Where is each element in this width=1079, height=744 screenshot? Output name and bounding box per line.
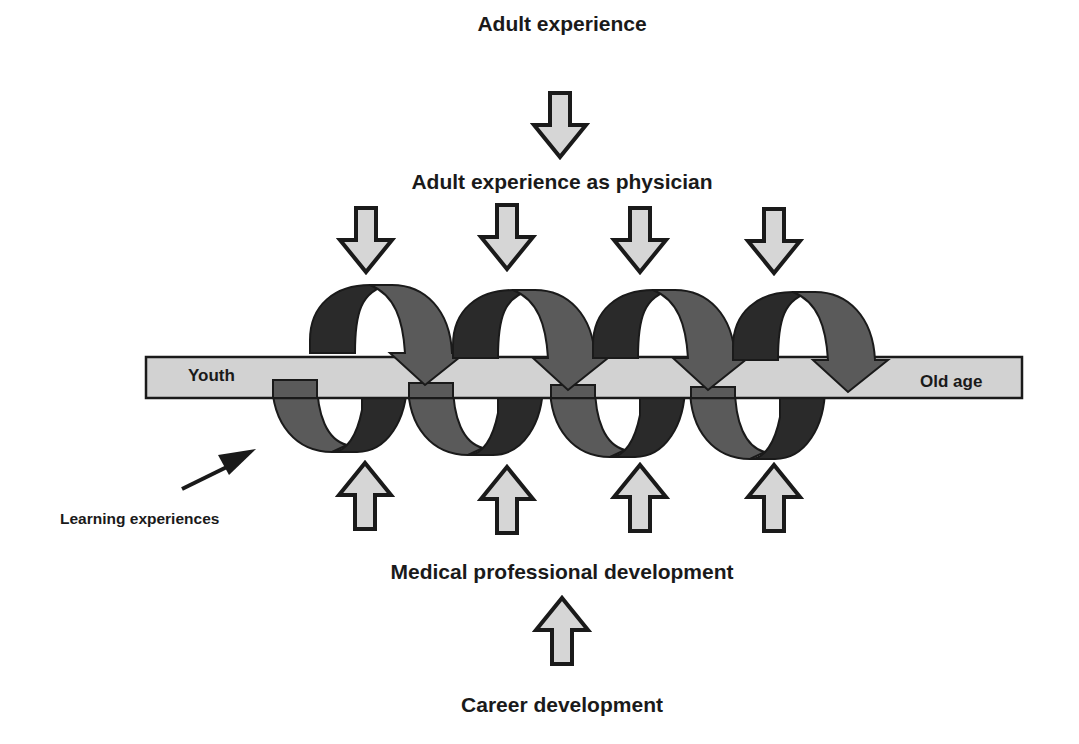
up-arrow-icon <box>481 467 533 533</box>
down-arrow-icon <box>614 208 666 272</box>
adult-experience-label: Adult experience <box>477 12 646 36</box>
down-arrow-icon <box>748 209 800 273</box>
up-arrow-icon <box>614 465 666 531</box>
old-age-label: Old age <box>920 372 982 392</box>
learning-experiences-label: Learning experiences <box>60 510 219 528</box>
youth-label: Youth <box>188 366 235 386</box>
adult-experience-physician-label: Adult experience as physician <box>411 170 712 194</box>
up-arrow-icon <box>536 598 588 664</box>
career-development-label: Career development <box>461 693 663 717</box>
down-arrow-icon <box>534 93 586 157</box>
up-arrow-icon <box>339 463 391 529</box>
medical-professional-development-label: Medical professional development <box>390 560 733 584</box>
spiral-learning-diagram <box>0 0 1079 744</box>
down-arrow-icon <box>340 208 392 272</box>
down-arrow-icon <box>481 205 533 269</box>
up-arrow-icon <box>748 465 800 531</box>
pointer-arrow-icon <box>182 449 256 489</box>
